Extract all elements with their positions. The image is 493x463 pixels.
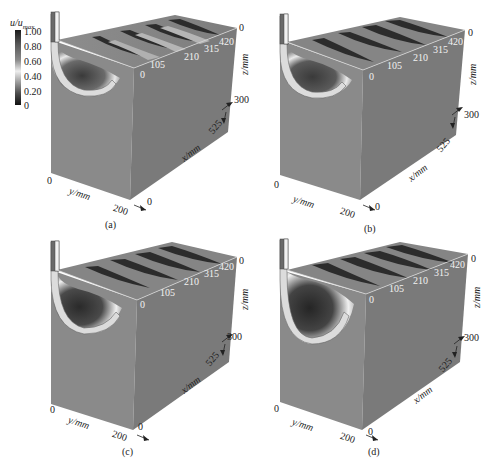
x-tick: 420 (219, 262, 234, 272)
z-tick: 300 (464, 110, 479, 120)
z-axis-label: z/mm (468, 64, 478, 85)
box-3d (250, 0, 493, 232)
panel-a: 0 105 210 315 420 0 z/mm 300 525 x/mm 0 … (0, 0, 250, 232)
x-tick: 315 (434, 268, 449, 278)
x-tick: 0 (369, 72, 374, 82)
panel-caption: (c) (122, 447, 133, 457)
z-tick: 0 (239, 256, 244, 266)
x-tick: 105 (389, 284, 404, 294)
y-tick: 0 (50, 405, 55, 415)
z-tick: 0 (239, 23, 244, 33)
x-tick: 420 (450, 260, 465, 270)
z-tick: 300 (234, 95, 249, 105)
z-axis-label: z/mm (240, 54, 250, 75)
x-tick: 315 (433, 45, 448, 55)
x-origin-tick: 0 (147, 197, 152, 207)
panel-caption: (d) (368, 447, 380, 457)
figure: u/umax 1.00 0.80 0.60 0.40 0.20 0 (0, 0, 493, 463)
z-axis-label: z/mm (240, 289, 250, 310)
x-tick: 420 (448, 37, 463, 47)
y-tick: 0 (47, 176, 52, 186)
x-tick: 315 (204, 44, 219, 54)
x-tick: 105 (160, 288, 175, 298)
x-tick: 315 (204, 269, 219, 279)
z-tick: 0 (468, 28, 473, 38)
box-3d (0, 0, 250, 232)
x-origin-tick: 0 (375, 202, 380, 212)
x-tick: 210 (413, 53, 428, 63)
x-tick: 0 (140, 300, 145, 310)
x-tick: 0 (369, 295, 374, 305)
panel-d: 0 105 210 315 420 0 z/mm 300 525 x/mm 0 … (250, 232, 493, 463)
y-tick: 0 (274, 404, 279, 414)
x-tick: 210 (184, 52, 199, 62)
box-3d (0, 232, 250, 463)
x-origin-tick: 0 (138, 422, 143, 432)
x-origin-tick: 0 (368, 427, 373, 437)
x-tick: 0 (140, 70, 145, 80)
x-tick: 210 (413, 276, 428, 286)
y-tick: 0 (274, 180, 279, 190)
z-tick: 300 (227, 332, 242, 342)
panel-c: 0 105 210 315 420 0 z/mm 300 525 x/mm 0 … (0, 232, 250, 463)
z-tick: 0 (471, 254, 476, 264)
x-tick: 420 (219, 37, 234, 47)
z-axis-label: z/mm (472, 287, 482, 308)
x-tick: 105 (150, 60, 165, 70)
x-tick: 105 (387, 61, 402, 71)
x-tick: 210 (184, 277, 199, 287)
panel-b: 0 105 210 315 420 0 z/mm 300 525 x/mm 0 … (250, 0, 493, 232)
panel-caption: (a) (105, 220, 116, 230)
z-tick: 300 (464, 333, 479, 343)
